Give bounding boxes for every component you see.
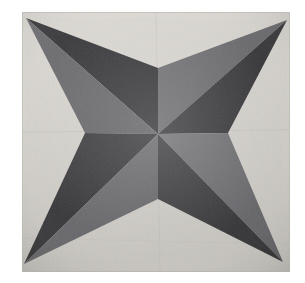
figure-root: Four-Pointed Star Photograph of a four-p…: [0, 0, 305, 283]
star-photo-canvas: [0, 0, 305, 283]
